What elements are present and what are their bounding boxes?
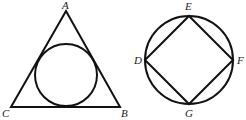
inscribed-circle bbox=[35, 44, 97, 106]
label-a: A bbox=[61, 0, 69, 11]
label-b: B bbox=[121, 107, 128, 119]
diagram-canvas: A C B E D F G bbox=[0, 0, 246, 120]
label-d: D bbox=[133, 54, 142, 66]
figure-triangle: A C B bbox=[2, 0, 128, 119]
label-c: C bbox=[2, 107, 10, 119]
label-e: E bbox=[184, 0, 192, 12]
figure-circle-square: E D F G bbox=[133, 0, 244, 119]
label-g: G bbox=[185, 107, 193, 119]
circumscribed-circle bbox=[145, 16, 233, 104]
triangle-abc bbox=[11, 11, 120, 107]
label-f: F bbox=[236, 54, 244, 66]
